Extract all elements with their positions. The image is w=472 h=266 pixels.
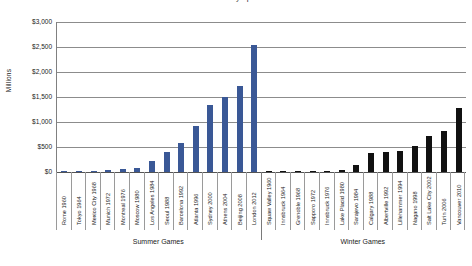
y-axis-tick-label: $1,000 [6, 118, 52, 125]
x-axis-category: Barcelona 1992 [173, 172, 188, 230]
x-axis-category: Innsbruck 1976 [319, 172, 334, 230]
x-axis-tick-label: Barcelona 1992 [178, 173, 184, 225]
x-axis-tick-label: Moscow 1980 [134, 173, 140, 225]
x-axis-tick-label: Rome 1960 [61, 173, 67, 225]
x-axis-tick-label: Tokyo 1964 [76, 173, 82, 225]
bar[interactable] [397, 151, 403, 173]
x-axis-category: Albertville 1992 [377, 172, 392, 230]
bar[interactable] [426, 136, 432, 172]
x-axis-tick-label: Salt Lake City 2002 [426, 173, 432, 225]
x-axis-category: Atlanta 1996 [187, 172, 202, 230]
x-axis-tick-label: Vancouver 2010 [456, 173, 462, 225]
bar[interactable] [164, 152, 170, 173]
x-axis-tick-label: Innsbruck 1964 [280, 173, 286, 225]
x-axis-category: Sapporo 1972 [304, 172, 319, 230]
x-axis-tick-label: Munich 1972 [105, 173, 111, 225]
bar[interactable] [193, 126, 199, 172]
x-axis-category: Salt Lake City 2002 [421, 172, 436, 230]
x-axis-tick-label: London 2012 [251, 173, 257, 225]
x-axis-category: Athens 2004 [217, 172, 232, 230]
bar[interactable] [456, 108, 462, 173]
bar-group [57, 22, 466, 172]
bar[interactable] [412, 146, 418, 173]
x-axis-category: Innsbruck 1964 [275, 172, 290, 230]
group-label-winter: Winter Games [318, 238, 408, 245]
x-axis-tick-label: Nagano 1998 [412, 173, 418, 225]
x-axis-category: London 2012 [246, 172, 261, 230]
x-axis-category: Tokyo 1964 [71, 172, 86, 230]
bar[interactable] [251, 45, 257, 173]
x-axis-category: Grenoble 1968 [290, 172, 305, 230]
x-axis-tick-label: Grenoble 1968 [295, 173, 301, 225]
plot-area [56, 22, 466, 172]
x-axis-tick-label: Seoul 1988 [164, 173, 170, 225]
bar[interactable] [222, 97, 228, 172]
bar[interactable] [353, 165, 359, 173]
x-axis-category: Calgary 1988 [363, 172, 378, 230]
y-axis-tick-label: $2,000 [6, 68, 52, 75]
chart-title-strip: Cost of the Olympic Games [0, 0, 472, 9]
bar[interactable] [237, 86, 243, 172]
x-axis-tick-label: Montreal 1976 [120, 173, 126, 225]
chart-container: Cost of the Olympic Games Millions $0$50… [0, 0, 472, 266]
chart-title: Cost of the Olympic Games [0, 0, 472, 2]
x-axis-category: Rome 1960 [56, 172, 71, 230]
group-label-summer: Summer Games [113, 238, 203, 245]
x-axis-tick-label: Beijing 2008 [237, 173, 243, 225]
x-axis-category: Mexico City 1968 [85, 172, 100, 230]
x-axis-tick-label: Athens 2004 [222, 173, 228, 225]
y-axis-tick-label: $2,500 [6, 43, 52, 50]
x-axis-category: Munich 1972 [100, 172, 115, 230]
x-axis-category: Sarajevo 1984 [348, 172, 363, 230]
x-axis-tick-label: Calgary 1988 [368, 173, 374, 225]
x-axis-tick-label: Squaw Valley 1960 [266, 173, 272, 225]
x-axis-category: Lake Placid 1980 [334, 172, 349, 230]
bar[interactable] [149, 161, 155, 173]
group-divider [261, 172, 262, 240]
x-axis-category: Turin 2006 [436, 172, 451, 230]
y-axis-tick-group: $0$500$1,000$1,500$2,000$2,500$3,000 [6, 0, 52, 266]
x-axis-category: Nagano 1998 [407, 172, 422, 230]
x-axis-tick-label: Mexico City 1968 [91, 173, 97, 225]
x-axis-tick-label: Sarajevo 1984 [353, 173, 359, 225]
x-axis-tick-label: Lake Placid 1980 [339, 173, 345, 225]
y-axis-tick-label: $3,000 [6, 18, 52, 25]
x-axis-tick-label: Atlanta 1996 [193, 173, 199, 225]
x-axis-category: Montreal 1976 [114, 172, 129, 230]
bar[interactable] [441, 131, 447, 172]
x-axis-tick-label: Innsbruck 1976 [324, 173, 330, 225]
x-axis-category: Los Angeles 1984 [144, 172, 159, 230]
bar[interactable] [383, 152, 389, 172]
x-axis-category: Lillehammer 1994 [392, 172, 407, 230]
bar[interactable] [368, 153, 374, 173]
y-axis-tick-label: $500 [6, 143, 52, 150]
x-axis-tick-label: Sapporo 1972 [310, 173, 316, 225]
y-axis-tick-label: $1,500 [6, 93, 52, 100]
x-axis-category: Vancouver 2010 [450, 172, 465, 230]
x-axis-category: Squaw Valley 1960 [261, 172, 276, 230]
x-axis-tick-label: Sydney 2000 [207, 173, 213, 225]
x-axis-tick-label: Lillehammer 1994 [397, 173, 403, 225]
bar[interactable] [178, 143, 184, 172]
x-axis-tick-label: Albertville 1992 [383, 173, 389, 225]
bar[interactable] [207, 105, 213, 172]
x-axis-category: Seoul 1988 [158, 172, 173, 230]
x-axis-tick-label: Turin 2006 [441, 173, 447, 225]
x-axis-category: Sydney 2000 [202, 172, 217, 230]
x-axis-category: Beijing 2008 [231, 172, 246, 230]
x-axis-tick-label: Los Angeles 1984 [149, 173, 155, 225]
y-axis-tick-label: $0 [6, 168, 52, 175]
x-axis-category: Moscow 1980 [129, 172, 144, 230]
